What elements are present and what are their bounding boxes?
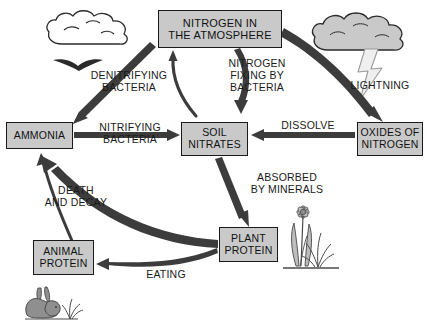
node-atmosphere-line2: THE ATMOSPHERE [168, 29, 271, 41]
edge-label-nitrifying-bacteria: NITRIFYING BACTERIA [92, 121, 168, 145]
node-animal-protein-line1: ANIMAL [43, 246, 83, 258]
absorbed-line1: ABSORBED [245, 171, 329, 183]
node-atmosphere-line1: NITROGEN IN [183, 17, 257, 29]
rabbit-illustration [25, 287, 83, 319]
diagram-vector-layer [0, 0, 429, 326]
edge-label-eating: EATING [138, 268, 194, 280]
death-decay-line1: DEATH [38, 184, 114, 196]
denitrifying-line2: BACTERIA [76, 81, 182, 93]
node-plant-protein[interactable]: PLANT PROTEIN [219, 227, 278, 262]
nitrogen-cycle-diagram: NITROGEN IN THE ATMOSPHERE AMMONIA SOIL … [0, 0, 429, 326]
node-soil-nitrates-line2: NITRATES [188, 139, 241, 151]
storm-cloud-illustration [313, 13, 403, 50]
edge-label-denitrifying-bacteria: DENITRIFYING BACTERIA [76, 69, 182, 93]
cloud-outline-illustration [47, 11, 127, 44]
dissolve-line1: DISSOLVE [276, 119, 340, 131]
denitrifying-line1: DENITRIFYING [76, 69, 182, 81]
node-oxides-of-nitrogen[interactable]: OXIDES OF NITROGEN [357, 122, 423, 156]
node-ammonia[interactable]: AMMONIA [6, 122, 73, 149]
node-ammonia-line1: AMMONIA [14, 130, 66, 142]
absorbed-line2: BY MINERALS [245, 183, 329, 195]
death-decay-line2: AND DECAY [38, 196, 114, 208]
edge-label-nitrogen-fixing-by-bacteria: NITROGEN FIXING BY BACTERIA [222, 57, 292, 93]
lightning-line1: LIGHTNING [348, 79, 412, 91]
arrow-soil-to-plant [215, 157, 249, 227]
node-animal-protein[interactable]: ANIMAL PROTEIN [33, 240, 94, 275]
nitrifying-line1: NITRIFYING [92, 121, 168, 133]
eating-line1: EATING [138, 268, 194, 280]
nitrogen-fixing-line1: NITROGEN [222, 57, 292, 69]
node-animal-protein-line2: PROTEIN [39, 258, 87, 270]
edge-label-absorbed-by-minerals: ABSORBED BY MINERALS [245, 171, 329, 195]
node-plant-protein-line2: PROTEIN [224, 245, 272, 257]
nitrogen-fixing-line3: BACTERIA [222, 81, 292, 93]
edge-label-lightning: LIGHTNING [348, 79, 412, 91]
lightning-bolt-illustration [358, 49, 382, 100]
edge-label-death-and-decay: DEATH AND DECAY [38, 184, 114, 208]
node-plant-protein-line1: PLANT [231, 233, 266, 245]
node-nitrogen-in-the-atmosphere[interactable]: NITROGEN IN THE ATMOSPHERE [158, 10, 282, 48]
node-oxides-line2: NITROGEN [361, 139, 418, 151]
nitrifying-line2: BACTERIA [92, 133, 168, 145]
flower-and-grass-illustration [283, 205, 339, 268]
edge-label-dissolve: DISSOLVE [276, 119, 340, 131]
nitrogen-fixing-line2: FIXING BY [222, 69, 292, 81]
node-soil-nitrates[interactable]: SOIL NITRATES [181, 122, 248, 156]
arrow-plant-to-animal [96, 248, 218, 270]
